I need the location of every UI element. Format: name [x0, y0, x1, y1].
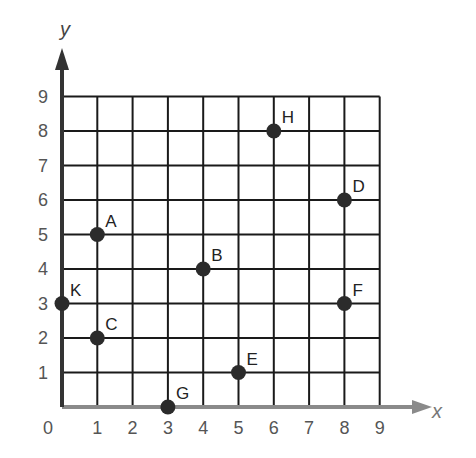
x-tick-label: 6 [269, 418, 279, 438]
x-tick-label: 4 [198, 418, 208, 438]
point-label: E [247, 350, 258, 369]
x-tick-label: 2 [128, 418, 138, 438]
y-axis-label: y [58, 18, 71, 40]
point-marker-icon [90, 227, 105, 242]
x-tick-label: 7 [304, 418, 314, 438]
data-point-d: D [337, 177, 365, 208]
point-marker-icon [160, 400, 175, 415]
y-tick-label: 3 [38, 294, 48, 314]
x-tick-label: 8 [339, 418, 349, 438]
point-marker-icon [196, 262, 211, 277]
y-axis-arrow-icon [55, 48, 69, 70]
data-point-h: H [266, 108, 294, 139]
point-label: K [70, 281, 82, 300]
point-marker-icon [231, 365, 246, 380]
x-axis-label: x [431, 400, 443, 422]
data-point-f: F [337, 281, 363, 312]
y-tick-label: 6 [38, 190, 48, 210]
y-tick-label: 2 [38, 328, 48, 348]
data-point-a: A [90, 212, 118, 243]
point-label: G [176, 384, 189, 403]
point-label: A [105, 212, 117, 231]
point-marker-icon [266, 124, 281, 139]
y-tick-label: 7 [38, 156, 48, 176]
data-point-e: E [231, 350, 258, 381]
data-point-c: C [90, 315, 118, 346]
axes [55, 48, 432, 414]
point-marker-icon [90, 331, 105, 346]
x-tick-label: 1 [92, 418, 102, 438]
x-tick-label: 0 [43, 418, 53, 438]
x-tick-label: 3 [163, 418, 173, 438]
point-label: D [352, 177, 364, 196]
point-label: C [105, 315, 117, 334]
y-tick-label: 9 [38, 87, 48, 107]
data-point-b: B [196, 246, 223, 277]
x-tick-label: 9 [375, 418, 385, 438]
y-tick-label: 1 [38, 363, 48, 383]
x-axis-arrow-icon [412, 400, 432, 414]
y-tick-label: 8 [38, 121, 48, 141]
data-point-g: G [160, 384, 189, 415]
data-point-k: K [55, 281, 83, 312]
point-marker-icon [55, 296, 70, 311]
point-label: H [282, 108, 294, 127]
point-label: F [352, 281, 362, 300]
data-points: ABCDEFGHK [55, 108, 365, 415]
y-tick-label: 4 [38, 259, 48, 279]
coordinate-grid-chart: 0123456789123456789 ABCDEFGHK x y [0, 0, 476, 458]
point-label: B [211, 246, 222, 265]
point-marker-icon [337, 296, 352, 311]
y-tick-label: 5 [38, 225, 48, 245]
point-marker-icon [337, 193, 352, 208]
x-tick-label: 5 [233, 418, 243, 438]
